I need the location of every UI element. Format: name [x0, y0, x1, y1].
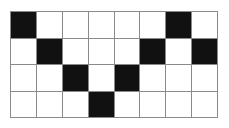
grid-cell-r1-c6 — [140, 12, 165, 38]
grid-cell-r1-c8 — [192, 12, 217, 38]
grid-cell-r2-c8 — [192, 39, 217, 65]
figure-canvas — [0, 0, 229, 128]
grid-cell-r1-c1 — [11, 12, 36, 38]
grid-cell-r3-c7 — [166, 65, 191, 91]
grid-cell-r4-c4 — [89, 92, 114, 118]
grid-cell-r3-c6 — [140, 65, 165, 91]
grid-cell-r4-c5 — [115, 92, 140, 118]
grid-cell-r2-c6 — [140, 39, 165, 65]
grid-cell-r3-c5 — [115, 65, 140, 91]
grid-cell-r2-c5 — [115, 39, 140, 65]
grid-cell-r3-c8 — [192, 65, 217, 91]
grid-cell-r4-c3 — [63, 92, 88, 118]
grid-cell-r1-c2 — [37, 12, 62, 38]
grid-cell-r2-c4 — [89, 39, 114, 65]
grid-cell-r2-c3 — [63, 39, 88, 65]
grid-cell-r3-c3 — [63, 65, 88, 91]
grid-cell-r1-c3 — [63, 12, 88, 38]
pattern-grid — [10, 11, 218, 118]
grid-cell-r4-c7 — [166, 92, 191, 118]
grid-cell-r2-c1 — [11, 39, 36, 65]
grid-cell-r4-c6 — [140, 92, 165, 118]
grid-cell-r4-c8 — [192, 92, 217, 118]
grid-cell-r3-c2 — [37, 65, 62, 91]
grid-cell-r2-c7 — [166, 39, 191, 65]
grid-cell-r4-c1 — [11, 92, 36, 118]
grid-cell-r1-c5 — [115, 12, 140, 38]
grid-cell-r1-c7 — [166, 12, 191, 38]
grid-cell-r3-c4 — [89, 65, 114, 91]
grid-cell-r3-c1 — [11, 65, 36, 91]
grid-cell-r4-c2 — [37, 92, 62, 118]
grid-cell-r2-c2 — [37, 39, 62, 65]
grid-cell-r1-c4 — [89, 12, 114, 38]
